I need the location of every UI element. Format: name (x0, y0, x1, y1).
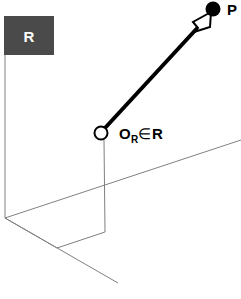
point-p-label: P (227, 1, 237, 18)
origin-marker (95, 127, 108, 140)
axis-lines-group (5, 55, 241, 283)
position-vector-shaft (105, 24, 201, 128)
plane-inner-edge (5, 218, 57, 248)
figure-canvas: R O R ∈ R P (0, 0, 241, 299)
plane-bottom-edge (57, 232, 105, 248)
origin-label-symbol: O (119, 125, 131, 142)
origin-drop-line (104, 140, 105, 232)
region-label: R (24, 28, 35, 45)
point-p-marker (206, 2, 221, 17)
ground-plane-far-edge (5, 140, 241, 218)
diagram-svg: R O R ∈ R P (0, 0, 241, 299)
position-vector-arrowhead (193, 12, 211, 32)
origin-label-group: O R ∈ R (119, 125, 163, 145)
origin-label-set: R (152, 125, 163, 142)
position-vector-group (105, 12, 211, 128)
region-patch-group: R (4, 16, 54, 55)
origin-label-membership-icon: ∈ (138, 125, 151, 142)
